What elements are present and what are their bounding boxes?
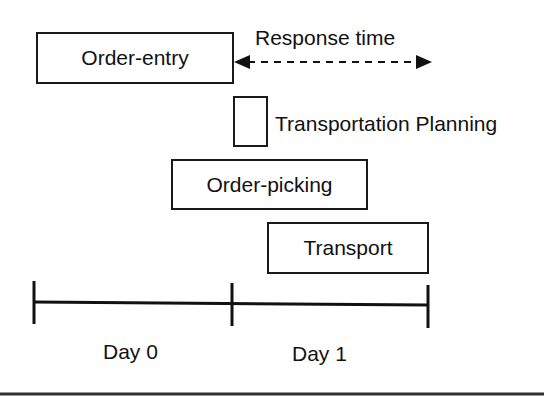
order-entry-label: Order-entry xyxy=(81,46,188,70)
timeline-axis xyxy=(34,281,428,328)
transportation-planning-label: Transportation Planning xyxy=(275,112,497,136)
order-picking-box: Order-picking xyxy=(171,159,368,210)
response-time-arrow xyxy=(234,55,432,69)
day-0-label: Day 0 xyxy=(103,340,158,364)
order-picking-label: Order-picking xyxy=(206,173,332,197)
day-1-label: Day 1 xyxy=(292,342,347,366)
transportation-planning-box xyxy=(233,96,268,147)
response-time-label: Response time xyxy=(255,26,395,50)
transport-label: Transport xyxy=(303,236,392,260)
transport-box: Transport xyxy=(267,222,429,274)
order-entry-box: Order-entry xyxy=(36,32,234,84)
